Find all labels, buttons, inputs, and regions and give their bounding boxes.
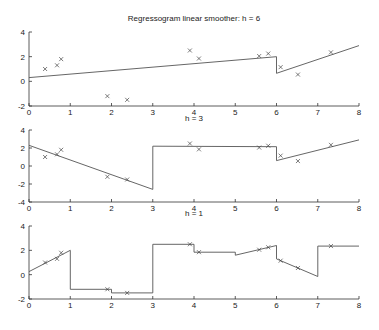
x-tick-label: 8 bbox=[357, 301, 362, 310]
y-tick-label: 4 bbox=[21, 126, 26, 135]
x-tick-label: 3 bbox=[151, 301, 156, 310]
y-tick-label: -2 bbox=[18, 102, 26, 111]
y-tick-label: 0 bbox=[21, 271, 26, 280]
x-tick-label: 0 bbox=[27, 204, 32, 213]
y-tick-label: 0 bbox=[21, 77, 26, 86]
x-tick-label: 5 bbox=[233, 301, 238, 310]
data-point bbox=[266, 144, 270, 148]
y-tick-label: -4 bbox=[18, 198, 26, 207]
y-tick-label: 2 bbox=[21, 144, 26, 153]
y-tick-label: 4 bbox=[21, 222, 26, 231]
x-tick-label: 1 bbox=[68, 204, 73, 213]
data-point bbox=[55, 63, 59, 67]
x-tick-label: 6 bbox=[274, 204, 279, 213]
smoother-line bbox=[29, 140, 359, 190]
y-tick-label: 2 bbox=[21, 246, 26, 255]
data-point bbox=[296, 73, 300, 77]
data-point bbox=[197, 147, 201, 151]
subplot-title: Regressogram linear smoother: h = 6 bbox=[128, 14, 261, 23]
data-point bbox=[279, 65, 283, 69]
x-tick-label: 0 bbox=[27, 301, 32, 310]
data-point bbox=[125, 98, 129, 102]
smoother-line bbox=[29, 244, 359, 293]
x-tick-label: 7 bbox=[316, 301, 321, 310]
data-point bbox=[188, 49, 192, 53]
x-tick-label: 3 bbox=[151, 204, 156, 213]
data-point bbox=[279, 154, 283, 158]
x-tick-label: 0 bbox=[27, 108, 32, 117]
x-tick-label: 5 bbox=[233, 108, 238, 117]
x-tick-label: 2 bbox=[109, 301, 114, 310]
data-point bbox=[188, 142, 192, 146]
y-tick-label: -2 bbox=[18, 295, 26, 304]
x-tick-label: 4 bbox=[192, 301, 197, 310]
data-point bbox=[296, 266, 300, 270]
x-tick-label: 6 bbox=[274, 301, 279, 310]
data-point bbox=[43, 67, 47, 71]
data-point bbox=[59, 57, 63, 61]
data-point bbox=[59, 251, 63, 255]
x-tick-label: 8 bbox=[357, 204, 362, 213]
data-point bbox=[105, 175, 109, 179]
data-point bbox=[43, 155, 47, 159]
data-point bbox=[59, 148, 63, 152]
x-tick-label: 1 bbox=[68, 108, 73, 117]
x-tick-label: 3 bbox=[151, 108, 156, 117]
x-tick-label: 1 bbox=[68, 301, 73, 310]
x-tick-label: 2 bbox=[109, 204, 114, 213]
x-tick-label: 7 bbox=[316, 204, 321, 213]
data-point bbox=[257, 146, 261, 150]
data-point bbox=[296, 159, 300, 163]
y-tick-label: 0 bbox=[21, 162, 26, 171]
regressogram-figure: Regressogram linear smoother: h = 601234… bbox=[0, 0, 379, 330]
data-point bbox=[197, 57, 201, 61]
subplot-2: h = 3012345678-4-2024 bbox=[18, 114, 362, 213]
x-tick-label: 2 bbox=[109, 108, 114, 117]
subplot-1: Regressogram linear smoother: h = 601234… bbox=[18, 14, 362, 117]
y-tick-label: 2 bbox=[21, 53, 26, 62]
data-point bbox=[329, 50, 333, 54]
x-tick-label: 6 bbox=[274, 108, 279, 117]
x-tick-label: 5 bbox=[233, 204, 238, 213]
data-point bbox=[279, 259, 283, 263]
smoother-line bbox=[29, 46, 359, 78]
data-point bbox=[329, 143, 333, 147]
x-tick-label: 7 bbox=[316, 108, 321, 117]
y-tick-label: 4 bbox=[21, 28, 26, 37]
data-point bbox=[105, 94, 109, 98]
data-point bbox=[266, 52, 270, 56]
subplot-title: h = 3 bbox=[185, 114, 204, 123]
data-point bbox=[257, 54, 261, 58]
subplot-3: h = 1012345678-2024 bbox=[18, 209, 362, 310]
y-tick-label: -2 bbox=[18, 180, 26, 189]
x-tick-label: 8 bbox=[357, 108, 362, 117]
subplot-title: h = 1 bbox=[185, 209, 204, 218]
